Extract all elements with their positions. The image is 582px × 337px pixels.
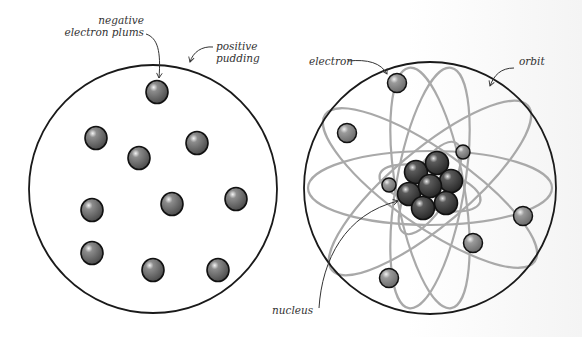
diagram-canvas: [0, 0, 582, 337]
plums-label-line2: electron plums: [60, 26, 144, 38]
orbit-label: orbit: [519, 55, 545, 67]
plums-label: negative electron plums: [60, 14, 144, 38]
orbit-leader-arrow: [490, 68, 514, 86]
electron: [456, 145, 470, 159]
plum: [81, 199, 103, 222]
plums-leader-arrow: [146, 34, 160, 78]
plums-label-line1: negative: [60, 14, 144, 26]
rutherford-model: [303, 61, 556, 315]
pudding-label-line2: pudding: [216, 52, 260, 64]
pudding-label-line1: positive: [216, 40, 260, 52]
electron-label: electron: [309, 55, 353, 67]
plum: [207, 259, 229, 282]
electron: [464, 234, 483, 253]
pudding-leader-arrow: [190, 47, 213, 62]
plum: [161, 193, 183, 216]
electron: [380, 269, 399, 288]
plum: [186, 132, 208, 155]
electron: [388, 74, 407, 93]
plum: [85, 127, 107, 150]
pudding-label: positive pudding: [216, 40, 260, 64]
plum: [128, 147, 150, 170]
electron: [382, 178, 396, 192]
plum-pudding-model: [29, 34, 277, 313]
nucleon: [419, 175, 442, 198]
electron: [338, 124, 357, 143]
plum: [142, 259, 164, 282]
nucleus: [398, 152, 463, 220]
electron: [514, 207, 533, 226]
plum: [225, 188, 247, 211]
electron-plums: [81, 81, 247, 282]
nucleon: [412, 197, 435, 220]
nucleon: [440, 170, 463, 193]
atom-models-figure: negative electron plums positive pudding…: [0, 0, 582, 337]
nucleus-label: nucleus: [272, 304, 313, 316]
plum: [146, 81, 168, 104]
plum: [81, 242, 103, 265]
